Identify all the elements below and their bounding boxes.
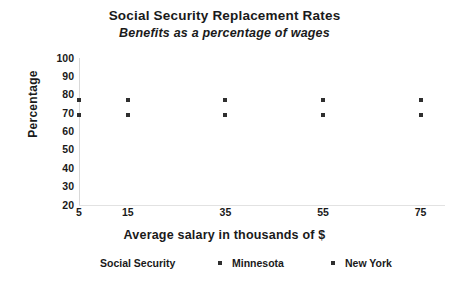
data-point-marker — [77, 113, 81, 117]
x-axis-title: Average salary in thousands of $ — [0, 228, 449, 242]
data-point-marker — [223, 98, 227, 102]
data-point-marker — [419, 113, 423, 117]
y-axis-tick-label: 40 — [48, 163, 74, 174]
y-axis-tick-label: 90 — [48, 71, 74, 82]
x-axis-tick-label: 5 — [59, 207, 99, 218]
legend-marker — [331, 261, 335, 265]
legend-item-label: Minnesota — [232, 256, 284, 270]
plot-area — [79, 58, 445, 205]
x-axis-tick-label: 75 — [401, 207, 441, 218]
legend-item-label: New York — [345, 256, 392, 270]
x-axis-tick-label: 15 — [108, 207, 148, 218]
y-axis-tick-label: 60 — [48, 126, 74, 137]
chart-subtitle: Benefits as a percentage of wages — [0, 26, 449, 40]
chart-container: Social Security Replacement Rates Benefi… — [0, 0, 449, 286]
y-axis-tick-label: 30 — [48, 181, 74, 192]
y-axis-tick-label: 100 — [48, 53, 74, 64]
x-axis-tick-label: 35 — [205, 207, 245, 218]
y-axis-tick-label: 80 — [48, 89, 74, 100]
data-point-marker — [126, 113, 130, 117]
y-axis-tick-label: 50 — [48, 144, 74, 155]
data-point-marker — [77, 98, 81, 102]
chart-legend: Social SecurityMinnesotaNew York — [0, 256, 449, 272]
data-point-marker — [223, 113, 227, 117]
x-axis-tick-label: 55 — [303, 207, 343, 218]
data-point-marker — [126, 98, 130, 102]
data-point-marker — [321, 113, 325, 117]
data-point-marker — [321, 98, 325, 102]
legend-marker — [218, 261, 222, 265]
legend-item-label: Social Security — [100, 256, 175, 270]
y-axis-tick-label: 70 — [48, 108, 74, 119]
data-point-marker — [419, 98, 423, 102]
y-axis-title: Percentage — [26, 59, 40, 149]
chart-title: Social Security Replacement Rates — [0, 8, 449, 23]
